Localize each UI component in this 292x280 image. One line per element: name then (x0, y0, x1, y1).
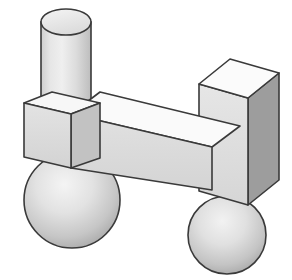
cube-left (24, 92, 100, 168)
shape-composition-svg (0, 0, 292, 280)
shape-composition-scene: 3D Shape Composition Isometric line draw… (0, 0, 292, 280)
cube-left-front-face (24, 103, 71, 168)
cube-left-side-face (71, 103, 100, 168)
cylinder-top-cap (41, 9, 91, 35)
sphere-right-body (188, 196, 266, 274)
sphere-right (188, 196, 266, 274)
